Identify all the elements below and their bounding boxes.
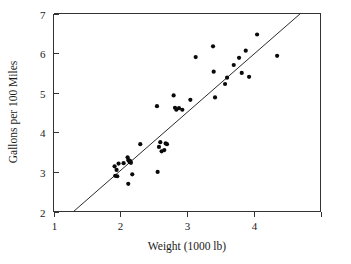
data-point [172, 93, 176, 97]
x-tick-label-1: 1 [52, 220, 58, 232]
data-point [225, 76, 229, 80]
data-point [240, 71, 244, 75]
x-tick-label-4: 4 [252, 220, 258, 232]
y-tick-label-2: 2 [40, 207, 46, 219]
data-point [112, 164, 116, 168]
scatter-plot-figure: 234567 1234 Weight (1000 lb) Gallons per… [0, 0, 351, 264]
data-point [114, 168, 118, 172]
data-point [162, 148, 166, 152]
data-point [130, 172, 134, 176]
data-point [244, 49, 248, 53]
data-point [255, 32, 259, 36]
data-point [247, 75, 251, 79]
y-tick-label-7: 7 [40, 9, 46, 21]
data-point [121, 161, 125, 165]
data-point [275, 54, 279, 58]
data-point [232, 63, 236, 67]
data-point [188, 98, 192, 102]
data-point [165, 142, 169, 146]
x-tick-label-3: 3 [185, 220, 191, 232]
y-tick-label-5: 5 [40, 88, 46, 100]
data-point [180, 108, 184, 112]
data-point [156, 170, 160, 174]
y-tick-label-6: 6 [40, 48, 46, 60]
y-tick-label-4: 4 [40, 127, 46, 139]
x-axis-title: Weight (1000 lb) [148, 240, 226, 253]
plot-canvas: 234567 1234 Weight (1000 lb) Gallons per… [0, 0, 351, 264]
data-point [115, 174, 119, 178]
y-tick-label-3: 3 [40, 167, 46, 179]
x-tick-label-2: 2 [118, 220, 124, 232]
data-point [211, 44, 215, 48]
data-point [129, 161, 133, 165]
data-point [126, 182, 130, 186]
data-point [157, 145, 161, 149]
data-point [194, 55, 198, 59]
data-point [212, 70, 216, 74]
data-point [116, 161, 120, 165]
y-axis-title: Gallons per 100 Miles [7, 60, 20, 163]
data-point [158, 140, 162, 144]
data-point [155, 104, 159, 108]
data-point [237, 56, 241, 60]
data-point [213, 95, 217, 99]
data-point [223, 82, 227, 86]
data-point [138, 142, 142, 146]
